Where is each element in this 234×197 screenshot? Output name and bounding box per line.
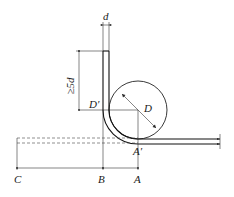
label-d-prime: D′ (88, 98, 100, 110)
rebar-bend-diagram: d ≥5d D′ D A′ C B A (0, 0, 234, 197)
rebar-inner-edge (109, 51, 220, 139)
label-A-prime: A′ (132, 145, 143, 157)
label-d: d (103, 10, 109, 22)
label-A: A (133, 173, 141, 185)
rebar-outer-edge (103, 51, 220, 144)
label-D: D (143, 102, 152, 114)
label-B: B (98, 173, 105, 185)
label-min-length: ≥5d (64, 77, 76, 95)
bar-diameter-dimension: d (100, 10, 112, 51)
label-C: C (14, 173, 22, 185)
